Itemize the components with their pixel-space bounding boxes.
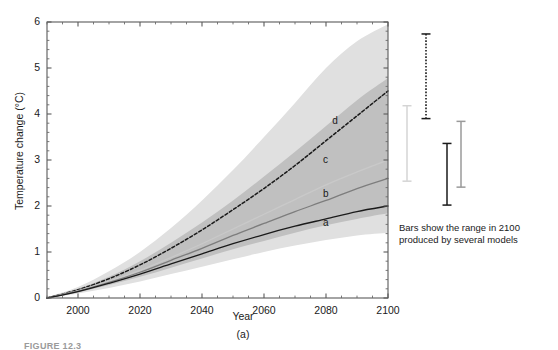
range-bars-caption: Bars show the range in 2100 produced by …	[399, 222, 557, 245]
x-tick-label: 2000	[58, 304, 98, 316]
y-tick-label: 6	[18, 15, 40, 27]
uncertainty-bands	[47, 24, 388, 298]
y-axis-label: Temperature change (°C)	[13, 61, 25, 241]
panel-letter: (a)	[183, 328, 303, 340]
x-tick-label: 2040	[182, 304, 222, 316]
curve-label-d: d	[332, 115, 338, 126]
figure-number: FIGURE 12.3	[24, 341, 81, 350]
x-tick-label: 2060	[244, 304, 284, 316]
x-tick-label: 2020	[120, 304, 160, 316]
y-tick-label: 0	[18, 291, 40, 303]
range-bars	[403, 34, 466, 205]
x-tick-label: 2100	[368, 304, 408, 316]
curve-label-b: b	[323, 188, 329, 199]
y-tick-label: 4	[18, 107, 40, 119]
y-tick-label: 5	[18, 61, 40, 73]
range-bars-caption-line2: produced by several models	[399, 234, 557, 246]
range-bars-caption-line1: Bars show the range in 2100	[399, 222, 557, 234]
x-tick-label: 2080	[306, 304, 346, 316]
y-tick-label: 3	[18, 153, 40, 165]
temperature-projection-chart	[0, 0, 558, 350]
y-tick-label: 1	[18, 245, 40, 257]
curve-label-a: a	[323, 217, 329, 228]
y-tick-label: 2	[18, 199, 40, 211]
figure-root: Temperature change (°C) Year (a) Bars sh…	[0, 0, 558, 350]
curve-label-c: c	[323, 154, 328, 165]
